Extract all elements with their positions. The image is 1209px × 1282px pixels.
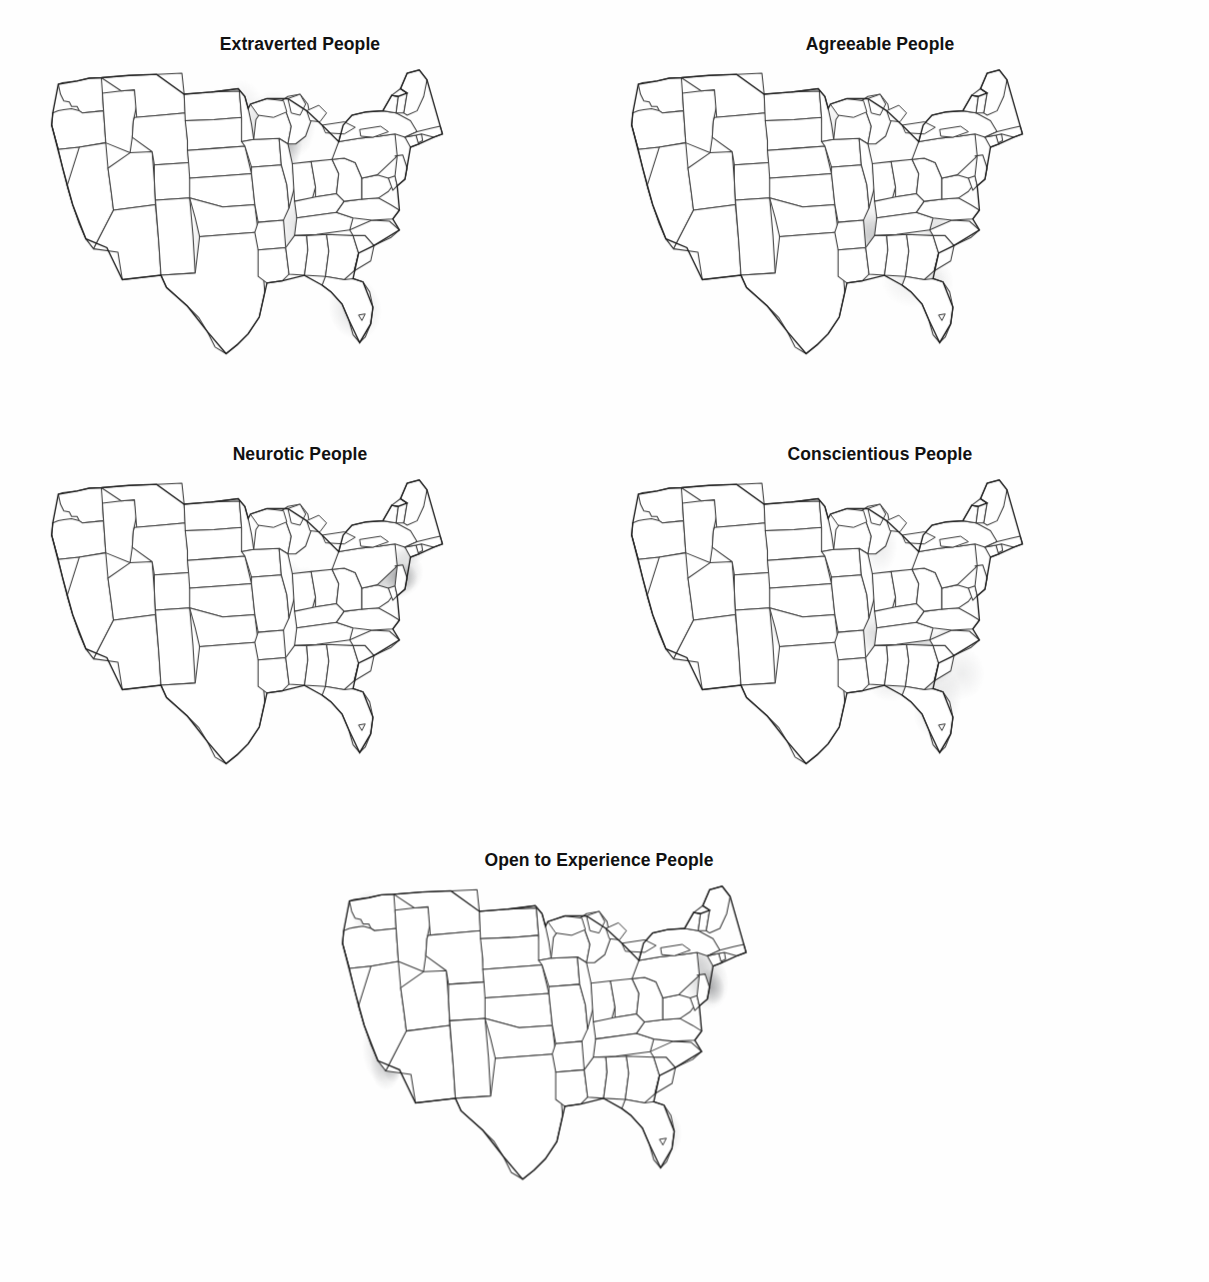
us-map-svg: [314, 876, 884, 1229]
state-la: [838, 248, 869, 283]
state-nd: [764, 91, 821, 121]
panel-title-extraverted: Extraverted People: [24, 34, 576, 55]
state-outlines: [52, 480, 443, 764]
map-agreeable: [604, 60, 1156, 440]
map-extraverted: [24, 60, 576, 440]
state-id: [682, 90, 716, 153]
panel-neurotic: Neurotic People: [24, 444, 576, 824]
state-nm: [735, 198, 775, 275]
state-nm: [155, 608, 195, 685]
state-la: [258, 248, 289, 283]
state-nj: [395, 155, 407, 186]
state-la: [838, 658, 869, 693]
state-nd: [184, 91, 241, 121]
state-outlines: [632, 480, 1023, 764]
state-id: [102, 90, 136, 153]
state-ar: [255, 630, 286, 660]
state-id: [682, 500, 716, 563]
state-ga: [625, 1056, 659, 1103]
state-sd: [185, 117, 245, 150]
state-al: [304, 644, 328, 686]
lake-0: [830, 509, 866, 528]
state-ms: [584, 1057, 607, 1098]
state-outlines: [52, 70, 443, 354]
state-nm: [735, 608, 775, 685]
panel-title-conscientious: Conscientious People: [604, 444, 1156, 465]
state-id: [102, 500, 136, 563]
state-ar: [255, 220, 286, 250]
panel-conscientious: Conscientious People: [604, 444, 1156, 824]
state-ut: [401, 971, 450, 1031]
map-neurotic: [24, 470, 576, 850]
state-ar: [552, 1041, 584, 1072]
us-map-svg: [24, 60, 576, 402]
map-conscientious: [604, 470, 1156, 850]
state-al: [304, 234, 328, 276]
state-ne: [187, 556, 251, 588]
state-outlines: [343, 886, 747, 1179]
us-map-svg: [24, 470, 576, 812]
state-sd: [185, 527, 245, 560]
state-nj: [975, 155, 987, 186]
state-ne: [767, 146, 831, 178]
panel-title-neurotic: Neurotic People: [24, 444, 576, 465]
state-nm: [450, 1018, 491, 1098]
panel-title-open-to-experience: Open to Experience People: [314, 850, 884, 871]
state-ne: [483, 965, 549, 998]
state-ut: [688, 562, 735, 621]
us-map-svg: [604, 60, 1156, 402]
panel-agreeable: Agreeable People: [604, 34, 1156, 414]
state-ms: [286, 646, 308, 686]
state-sd: [480, 935, 542, 969]
state-ut: [108, 562, 155, 621]
state-ut: [108, 152, 155, 211]
state-ne: [187, 146, 251, 178]
state-la: [258, 658, 289, 693]
state-nm: [155, 198, 195, 275]
state-nd: [479, 908, 538, 939]
state-or: [52, 519, 106, 560]
state-or: [632, 519, 686, 560]
lake-0: [250, 509, 286, 528]
state-la: [556, 1070, 588, 1106]
panel-open-to-experience: Open to Experience People: [314, 850, 884, 1242]
state-or: [52, 109, 106, 150]
state-sd: [765, 527, 825, 560]
state-id: [395, 907, 430, 972]
state-or: [632, 109, 686, 150]
us-map-svg: [604, 470, 1156, 812]
state-ar: [835, 630, 866, 660]
state-ne: [767, 556, 831, 588]
panel-extraverted: Extraverted People: [24, 34, 576, 414]
state-nd: [764, 501, 821, 531]
state-al: [604, 1056, 629, 1099]
state-ut: [688, 152, 735, 211]
personality-maps-figure: Extraverted People Agreeable People Neur…: [0, 0, 1209, 1282]
state-al: [884, 234, 908, 276]
map-open-to-experience: [314, 876, 884, 1268]
state-sd: [765, 117, 825, 150]
panel-title-agreeable: Agreeable People: [604, 34, 1156, 55]
state-outlines: [632, 70, 1023, 354]
state-nj: [975, 565, 987, 596]
state-or: [343, 926, 399, 968]
state-ar: [835, 220, 866, 250]
state-al: [884, 644, 908, 686]
state-nd: [184, 501, 241, 531]
lake-0: [548, 916, 586, 935]
